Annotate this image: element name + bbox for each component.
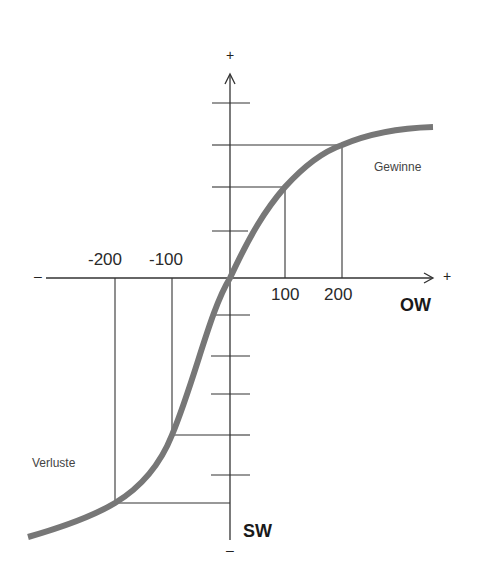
- x-axis-title: OW: [400, 295, 431, 316]
- gains-region-label: Gewinne: [374, 160, 421, 174]
- reference-lines-gains: [230, 145, 342, 278]
- x-tick-label-neg200: -200: [88, 250, 122, 270]
- losses-region-label: Verluste: [32, 456, 75, 470]
- y-axis-plus-sign: +: [226, 47, 234, 63]
- x-tick-label-neg100: -100: [149, 250, 183, 270]
- value-function-chart: [0, 0, 484, 586]
- x-tick-label-200: 200: [324, 285, 352, 305]
- y-axis-ticks-positive: [212, 103, 250, 231]
- y-axis-minus-sign: –: [226, 542, 234, 558]
- x-tick-label-100: 100: [271, 285, 299, 305]
- y-axis-title: SW: [243, 521, 272, 542]
- x-axis-plus-sign: +: [443, 268, 451, 284]
- x-axis-minus-sign: –: [34, 268, 42, 284]
